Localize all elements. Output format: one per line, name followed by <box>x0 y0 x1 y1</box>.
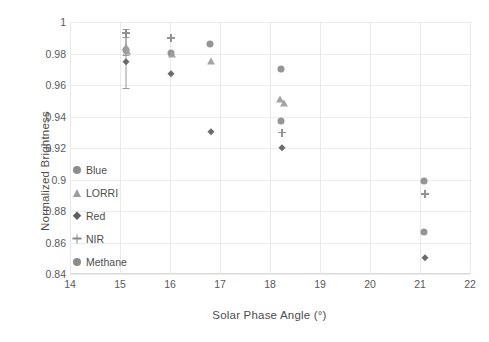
data-point-red <box>421 254 429 262</box>
data-point-blue <box>207 41 214 48</box>
circle-icon <box>70 255 84 269</box>
data-point-nir <box>122 29 130 37</box>
x-axis-tick-label: 20 <box>364 278 376 290</box>
diamond-icon <box>70 209 84 223</box>
legend-item-label: Blue <box>86 164 107 176</box>
gridline-horizontal <box>70 22 470 23</box>
data-point-methane <box>421 228 428 235</box>
legend-item-blue[interactable]: Blue <box>70 158 180 181</box>
x-axis-tick-label: 21 <box>414 278 426 290</box>
circle-icon <box>70 163 84 177</box>
y-axis-tick-labels: 0.840.860.880.90.920.940.960.981 <box>28 22 66 274</box>
legend-item-label: Methane <box>86 256 127 268</box>
y-axis-tick-label: 0.94 <box>46 111 66 123</box>
legend-item-label: LORRI <box>86 187 118 199</box>
data-point-nir <box>167 34 175 42</box>
data-point-red <box>122 58 130 66</box>
y-axis-tick-label: 1 <box>60 16 66 28</box>
error-bar-cap <box>123 55 130 56</box>
data-point-nir <box>421 190 429 198</box>
triangle-icon <box>70 186 84 200</box>
x-axis-tick-labels: 141516171819202122 <box>70 278 470 294</box>
data-point-nir <box>278 129 286 137</box>
gridline-horizontal <box>70 117 470 118</box>
data-point-blue <box>278 66 285 73</box>
data-point-red <box>207 128 215 136</box>
x-axis-tick-label: 22 <box>464 278 476 290</box>
data-point-lorri <box>280 100 288 107</box>
legend-item-lorri[interactable]: LORRI <box>70 181 180 204</box>
x-axis-title: Solar Phase Angle (°) <box>60 305 479 325</box>
legend-item-red[interactable]: Red <box>70 204 180 227</box>
x-axis-tick-label: 18 <box>264 278 276 290</box>
data-point-methane <box>278 117 285 124</box>
legend-item-methane[interactable]: Methane <box>70 250 180 273</box>
legend-item-label: Red <box>86 210 105 222</box>
y-axis-tick-label: 0.98 <box>46 48 66 60</box>
gridline-horizontal <box>70 274 470 275</box>
y-axis-tick-label: 0.84 <box>46 268 66 280</box>
data-point-lorri <box>123 48 131 55</box>
y-axis-tick-label: 0.92 <box>46 142 66 154</box>
gridline-horizontal <box>70 85 470 86</box>
x-axis-tick-label: 16 <box>164 278 176 290</box>
legend-item-nir[interactable]: NIR <box>70 227 180 250</box>
y-axis-tick-label: 0.96 <box>46 79 66 91</box>
scatter-chart: Normalized Brightness Solar Phase Angle … <box>0 0 489 342</box>
gridline-vertical <box>470 22 471 274</box>
data-point-red <box>278 144 286 152</box>
x-axis-tick-label: 19 <box>314 278 326 290</box>
gridline-horizontal <box>70 148 470 149</box>
data-point-blue <box>421 178 428 185</box>
x-axis-tick-label: 14 <box>64 278 76 290</box>
data-point-red <box>167 70 175 78</box>
chart-legend: BlueLORRIRedNIRMethane <box>70 158 180 273</box>
data-point-lorri <box>168 51 176 58</box>
legend-item-label: NIR <box>86 233 104 245</box>
error-bar-cap <box>123 88 130 89</box>
x-axis-tick-label: 15 <box>114 278 126 290</box>
y-axis-tick-label: 0.86 <box>46 237 66 249</box>
x-axis-tick-label: 17 <box>214 278 226 290</box>
y-axis-tick-label: 0.9 <box>51 174 66 186</box>
y-axis-tick-label: 0.88 <box>46 205 66 217</box>
data-point-lorri <box>207 58 215 65</box>
error-bar-cap <box>123 37 130 38</box>
plus-icon <box>70 232 84 246</box>
